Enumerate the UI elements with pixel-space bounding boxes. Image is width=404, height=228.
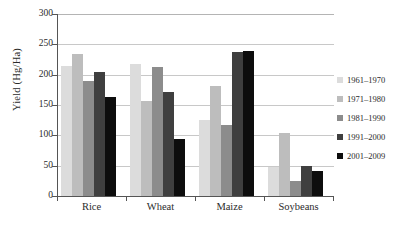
bar [61,66,72,196]
legend-item-label: 1971–1980 [347,94,385,104]
y-axis-title: Yield (Hg/Ha) [11,20,22,140]
bar [279,133,290,196]
legend-item-label: 1981–1990 [347,113,385,123]
y-axis-tick-label: 300 [21,9,53,19]
bar [163,92,174,196]
y-axis-tick-label: 0 [21,191,53,201]
bar [290,181,301,196]
bar-group [61,14,116,196]
bar-chart-figure: Yield (Hg/Ha) 050100150200250300 RiceWhe… [0,0,404,228]
y-axis-tick-label: 200 [21,70,53,80]
plot-area [57,14,334,197]
bar [232,52,243,196]
bar [152,67,163,196]
bar [94,72,105,196]
bar [72,54,83,196]
bar [243,51,254,196]
legend-swatch-icon [337,115,343,121]
legend-item: 2001–2009 [337,146,404,165]
bar [268,167,279,196]
y-axis-tick-label: 250 [21,39,53,49]
x-axis-tick-label: Rice [57,201,127,212]
legend-swatch-icon [337,77,343,83]
legend-item-label: 2001–2009 [347,151,385,161]
chart-legend: 1961–19701971–19801981–19901991–20002001… [337,70,404,165]
x-axis-tick-label: Wheat [126,201,196,212]
bar-group [130,14,185,196]
y-axis-tick-label: 100 [21,130,53,140]
bar [130,64,141,196]
bar [199,120,210,196]
legend-swatch-icon [337,96,343,102]
bar [312,171,323,196]
x-axis-tick-label: Maize [195,201,265,212]
bar [301,166,312,196]
legend-item: 1991–2000 [337,127,404,146]
y-axis-tick-label: 150 [21,100,53,110]
bar-group [199,14,254,196]
legend-swatch-icon [337,134,343,140]
bars-layer [58,14,334,196]
legend-swatch-icon [337,153,343,159]
bar [221,125,232,196]
bar-group [268,14,323,196]
x-axis-tick-label: Soybeans [264,201,334,212]
bar [105,97,116,196]
legend-item-label: 1991–2000 [347,132,385,142]
legend-item-label: 1961–1970 [347,75,385,85]
legend-item: 1961–1970 [337,70,404,89]
bar [141,101,152,196]
y-axis-tick-label: 50 [21,161,53,171]
bar [174,139,185,196]
legend-item: 1971–1980 [337,89,404,108]
bar [210,86,221,196]
legend-item: 1981–1990 [337,108,404,127]
bar [83,81,94,196]
